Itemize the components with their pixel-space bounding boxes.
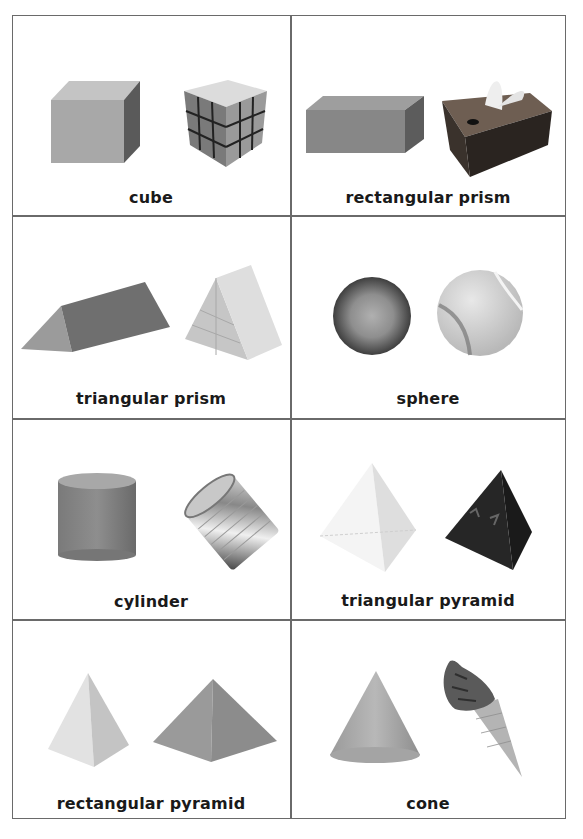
card-cylinder: cylinder xyxy=(12,418,290,619)
wooden-triangular-block-icon xyxy=(12,215,290,418)
shape-label: cone xyxy=(290,794,566,813)
tennis-ball-icon xyxy=(290,215,566,418)
card-rectangular-pyramid: rectangular pyramid xyxy=(12,619,290,819)
card-cube: cube xyxy=(12,15,290,215)
shape-label: cube xyxy=(12,188,290,207)
four-sided-die-icon xyxy=(290,418,566,619)
card-triangular-pyramid: triangular pyramid xyxy=(290,418,566,619)
tin-can-icon xyxy=(12,418,290,619)
card-cone: cone xyxy=(290,619,566,819)
shape-label: triangular prism xyxy=(12,389,290,408)
stone-pyramid-icon xyxy=(12,619,290,819)
tissue-box-icon xyxy=(290,15,566,215)
shape-label: cylinder xyxy=(12,592,290,611)
shape-label: triangular pyramid xyxy=(290,591,566,610)
card-rectangular-prism: rectangular prism xyxy=(290,15,566,215)
shape-label: rectangular pyramid xyxy=(12,794,290,813)
card-sphere: sphere xyxy=(290,215,566,418)
shape-label: rectangular prism xyxy=(290,188,566,207)
rubiks-cube-icon xyxy=(12,15,290,215)
shape-label: sphere xyxy=(290,389,566,408)
ice-cream-cone-icon xyxy=(290,619,566,819)
card-triangular-prism: triangular prism xyxy=(12,215,290,418)
